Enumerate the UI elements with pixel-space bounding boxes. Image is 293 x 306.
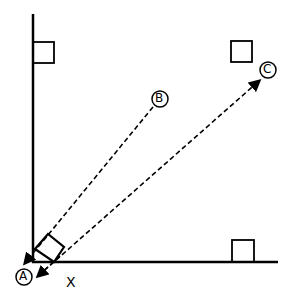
axis-x-label: X (66, 274, 76, 290)
dashed-arrow-b-to-a (25, 107, 153, 263)
point-c-label: C (263, 62, 271, 76)
square-marker-top-right (231, 41, 252, 62)
point-a-label: A (19, 269, 27, 283)
square-marker-bottom-right (232, 240, 254, 262)
diagram-canvas (0, 0, 293, 306)
square-marker-left (33, 42, 54, 63)
dashed-arrow-a-to-c (38, 81, 259, 276)
point-b-label: B (155, 91, 163, 105)
